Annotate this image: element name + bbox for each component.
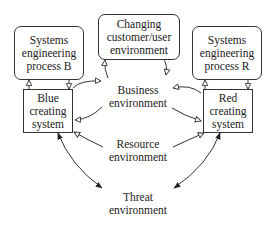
edge-business-to-red [172,108,201,121]
node-systems-engineering-process-r: Systems engineering process R [192,26,262,80]
node-label: Systems [22,34,76,47]
node-resource-environment: Resource environment [100,138,176,164]
node-label: environment [100,204,176,217]
node-red-creating-system: Red creating system [203,89,253,133]
node-label: Changing [107,18,172,31]
edge-blue-to-business [73,81,101,88]
node-label: environment [100,97,176,110]
node-label: environment [100,151,176,164]
node-label: engineering [22,47,76,60]
edge-blue-threat [58,133,102,188]
node-label: process B [22,60,76,73]
node-label: Red [209,92,246,105]
edge-red-threat [174,133,220,188]
edge-business-to-changing [105,60,108,78]
node-business-environment: Business environment [100,84,176,110]
node-label: process R [200,60,254,73]
node-changing-customer-user-environment: Changing customer/user environment [98,14,180,60]
edge-changing-to-business [163,58,167,75]
node-label: system [209,118,246,131]
node-label: Business [100,84,176,97]
node-label: Resource [100,138,176,151]
node-label: Systems [200,34,254,47]
edge-red-to-business [173,87,201,93]
node-blue-creating-system: Blue creating system [23,89,73,133]
node-label: creating [209,105,246,118]
edge-resource-to-red [173,133,204,147]
node-label: system [29,118,66,131]
node-label: Threat [100,191,176,204]
node-label: customer/user [107,31,172,44]
edge-business-to-blue [75,107,102,120]
node-label: Blue [29,92,66,105]
node-label: engineering [200,47,254,60]
diagram-canvas: Systems engineering process B Changing c… [0,0,277,226]
node-label: creating [29,105,66,118]
node-label: environment [107,44,172,57]
edge-resource-to-blue [74,132,103,147]
node-systems-engineering-process-b: Systems engineering process B [14,26,84,80]
node-threat-environment: Threat environment [100,191,176,217]
